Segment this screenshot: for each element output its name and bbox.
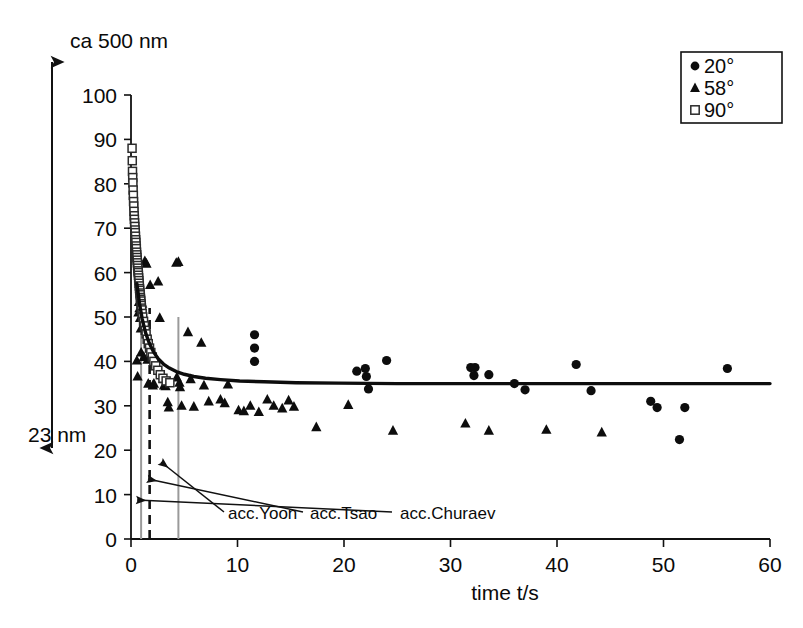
acc-churaev-label: acc.Churaev bbox=[400, 504, 496, 523]
data-point bbox=[653, 403, 662, 412]
x-tick-label: 30 bbox=[439, 553, 462, 576]
data-point bbox=[343, 399, 353, 409]
data-point bbox=[250, 343, 259, 352]
legend-label-2: 90° bbox=[704, 99, 734, 121]
y-tick-label: 50 bbox=[94, 306, 117, 329]
data-point bbox=[520, 385, 529, 394]
data-point bbox=[470, 363, 479, 372]
x-tick-label: 50 bbox=[652, 553, 675, 576]
data-point bbox=[204, 396, 214, 406]
data-point bbox=[484, 370, 493, 379]
data-point bbox=[361, 364, 370, 373]
data-point bbox=[382, 356, 391, 365]
x-tick-label: 20 bbox=[332, 553, 355, 576]
data-points-group bbox=[128, 144, 732, 444]
data-point bbox=[597, 427, 607, 437]
data-point bbox=[128, 157, 136, 165]
figure-container: 01020304050607080901000102030405060time … bbox=[0, 0, 803, 628]
data-point bbox=[245, 400, 255, 410]
scatter-plot: 01020304050607080901000102030405060time … bbox=[0, 0, 803, 628]
y-tick-label: 100 bbox=[82, 84, 117, 107]
data-point bbox=[153, 276, 163, 286]
data-point bbox=[680, 403, 689, 412]
legend-marker-circle bbox=[691, 62, 700, 71]
data-point bbox=[128, 144, 136, 152]
data-point bbox=[311, 422, 321, 432]
data-point bbox=[362, 372, 371, 381]
acc-yoon-arrow bbox=[161, 462, 224, 512]
axes-group: 01020304050607080901000102030405060time … bbox=[82, 84, 782, 604]
data-point bbox=[388, 425, 398, 435]
data-point bbox=[189, 401, 199, 411]
data-point bbox=[460, 418, 470, 428]
top-left-scale-label: ca 500 nm bbox=[70, 29, 168, 52]
fit-curve bbox=[137, 284, 770, 384]
data-point bbox=[250, 357, 259, 366]
data-point bbox=[469, 371, 478, 380]
data-point bbox=[484, 425, 494, 435]
x-tick-label: 0 bbox=[125, 553, 137, 576]
data-point bbox=[166, 379, 174, 387]
y-tick-label: 20 bbox=[94, 439, 117, 462]
data-point bbox=[254, 406, 264, 416]
y-tick-label: 90 bbox=[94, 128, 117, 151]
data-point bbox=[352, 367, 361, 376]
y-tick-label: 60 bbox=[94, 262, 117, 285]
data-point bbox=[183, 326, 193, 336]
data-point bbox=[723, 364, 732, 373]
data-point bbox=[199, 380, 209, 390]
x-tick-label: 10 bbox=[226, 553, 249, 576]
data-point bbox=[283, 395, 293, 405]
x-tick-label: 40 bbox=[545, 553, 568, 576]
y-tick-label: 10 bbox=[94, 484, 117, 507]
x-tick-label: 60 bbox=[758, 553, 781, 576]
series-20deg bbox=[250, 330, 732, 444]
data-point bbox=[572, 360, 581, 369]
bottom-left-scale-label: 23 nm bbox=[28, 423, 86, 446]
fit-curve-group bbox=[137, 284, 770, 384]
y-tick-label: 40 bbox=[94, 350, 117, 373]
data-point bbox=[586, 386, 595, 395]
legend-marker-square bbox=[691, 106, 699, 114]
x-axis-title: time t/s bbox=[471, 581, 539, 604]
legend-label-0: 20° bbox=[704, 55, 734, 77]
data-point bbox=[155, 312, 165, 322]
series-58deg bbox=[132, 255, 607, 436]
data-point bbox=[262, 394, 272, 404]
y-tick-label: 0 bbox=[105, 528, 117, 551]
data-point bbox=[250, 330, 259, 339]
y-tick-label: 70 bbox=[94, 217, 117, 240]
y-tick-label: 30 bbox=[94, 395, 117, 418]
data-point bbox=[364, 384, 373, 393]
data-point bbox=[675, 435, 684, 444]
legend-group: 20°58°90° bbox=[681, 52, 782, 123]
acc-tsao-label: acc.Tsao bbox=[310, 504, 377, 523]
data-point bbox=[196, 337, 206, 347]
annotations-group: acc.Yoonacc.Tsaoacc.Churaev bbox=[137, 462, 496, 523]
legend-label-1: 58° bbox=[704, 77, 734, 99]
data-point bbox=[541, 424, 551, 434]
y-tick-label: 80 bbox=[94, 173, 117, 196]
